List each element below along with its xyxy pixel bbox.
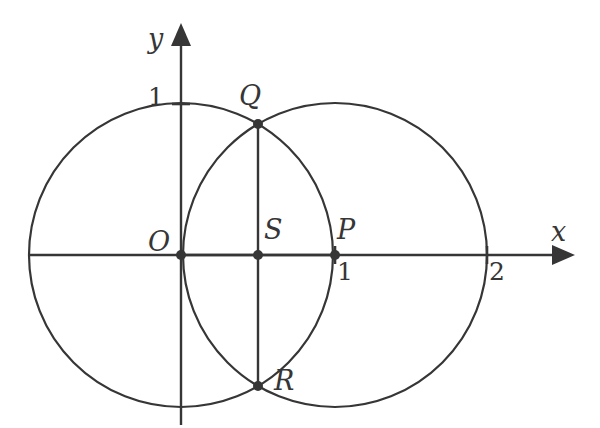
point-dot-Q [253, 119, 263, 129]
y-axis-label: y [148, 25, 163, 52]
diagram-canvas [0, 0, 600, 428]
y-axis-arrowhead [171, 23, 191, 46]
point-label-R: R [274, 367, 294, 394]
point-dot-R [253, 381, 263, 391]
x-axis-tick-label-2: 2 [489, 259, 505, 284]
point-label-O: O [148, 228, 170, 255]
point-dot-O [176, 250, 186, 260]
x-axis-tick-label-1: 1 [337, 259, 353, 284]
geometry-figure: x y 1 1 2 O S P Q R [0, 0, 600, 428]
point-label-S: S [264, 216, 283, 243]
x-axis-arrowhead [552, 245, 575, 265]
y-axis-tick-label-1: 1 [148, 84, 164, 109]
point-label-Q: Q [239, 82, 261, 109]
x-axis-label: x [551, 218, 566, 245]
point-label-P: P [337, 216, 355, 243]
point-dot-S [253, 250, 263, 260]
